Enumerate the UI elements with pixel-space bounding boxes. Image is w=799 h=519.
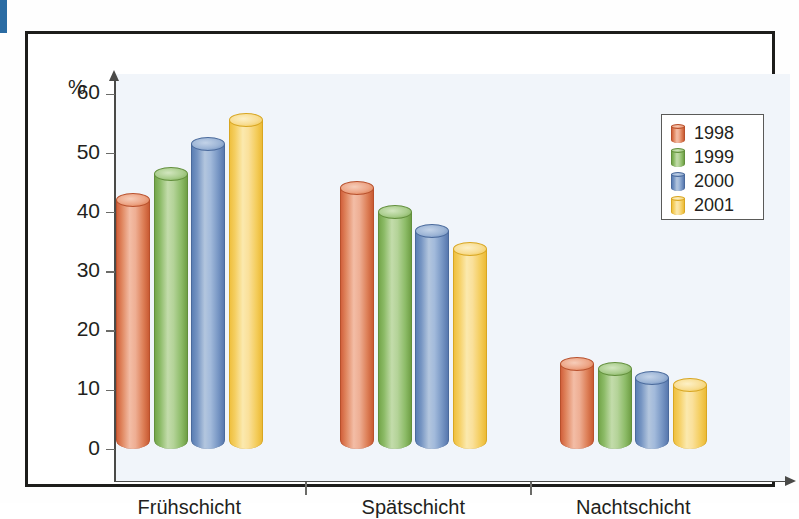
bar-top-cap (378, 205, 412, 219)
bar-frühschicht-1999 (154, 167, 188, 448)
y-axis-tick-label: 40 (28, 213, 100, 214)
legend-swatch-1998 (671, 124, 685, 143)
bar-body (191, 144, 225, 449)
bar-top-cap (635, 371, 669, 385)
chart-figure-frame: % 6050403020100 FrühschichtSpätschichtNa… (25, 31, 775, 487)
legend-item-1998[interactable]: 1998 (671, 122, 734, 144)
bar-body (415, 231, 449, 449)
y-axis-tick-label-text: 10 (77, 376, 100, 400)
y-axis-tick-label-text: 50 (77, 140, 100, 164)
y-axis-tick-label: 0 (28, 450, 100, 451)
x-axis-tick (530, 482, 532, 495)
y-axis-tick (106, 212, 115, 213)
bar-body (673, 385, 707, 449)
bar-nachtschicht-2001 (673, 378, 707, 449)
bar-top-cap (229, 113, 263, 127)
legend-swatch-2000 (671, 172, 685, 191)
y-axis-tick (106, 271, 115, 272)
y-axis-tick-label: 10 (28, 390, 100, 391)
bar-body (598, 369, 632, 449)
y-axis-tick (106, 449, 115, 450)
bar-body (229, 120, 263, 449)
bar-body (116, 200, 150, 449)
legend-swatch-cap (671, 196, 685, 201)
legend-swatch-cap (671, 172, 685, 177)
bar-body (453, 249, 487, 449)
legend-label-2001: 2001 (694, 196, 734, 214)
bar-nachtschicht-2000 (635, 371, 669, 448)
y-axis-tick-label: 30 (28, 272, 100, 273)
x-axis-line (114, 481, 787, 483)
y-axis-tick-label-text: 0 (88, 436, 100, 460)
x-axis-tick (305, 482, 307, 495)
legend-swatch-1999 (671, 148, 685, 167)
y-axis-tick (106, 94, 115, 95)
y-axis-arrow (109, 70, 119, 81)
bar-nachtschicht-1999 (598, 362, 632, 449)
y-axis-tick-label: 50 (28, 154, 100, 155)
y-axis-tick-label-text: 40 (77, 199, 100, 223)
page-margin-tab (0, 0, 7, 33)
bar-top-cap (453, 242, 487, 256)
category-label-1: Frühschicht (99, 496, 279, 519)
bar-frühschicht-2001 (229, 113, 263, 449)
y-axis-tick (106, 330, 115, 331)
legend-item-2001[interactable]: 2001 (671, 194, 734, 216)
bar-spätschicht-1998 (340, 181, 374, 448)
bar-top-cap (598, 362, 632, 376)
bar-spätschicht-2000 (415, 224, 449, 449)
legend-label-1999: 1999 (694, 148, 734, 166)
bar-top-cap (116, 193, 150, 207)
legend-label-2000: 2000 (694, 172, 734, 190)
y-axis-tick (106, 390, 115, 391)
x-axis-arrow (785, 476, 796, 486)
category-label-2: Spätschicht (323, 496, 503, 519)
chart-legend: 1998199920002001 (661, 114, 764, 220)
y-axis-tick-label: 60 (28, 94, 100, 95)
y-axis-tick-label-text: 20 (77, 317, 100, 341)
legend-label-1998: 1998 (694, 124, 734, 142)
bar-top-cap (673, 378, 707, 392)
bar-body (560, 364, 594, 448)
bar-spätschicht-2001 (453, 242, 487, 449)
y-axis-tick-label-text: 60 (77, 80, 100, 104)
y-axis-tick (106, 153, 115, 154)
bar-top-cap (191, 137, 225, 151)
y-axis-tick-label: 20 (28, 331, 100, 332)
bar-body (635, 378, 669, 448)
legend-item-1999[interactable]: 1999 (671, 146, 734, 168)
legend-swatch-cap (671, 148, 685, 153)
y-axis-tick-label-text: 30 (77, 258, 100, 282)
bar-body (340, 188, 374, 448)
legend-swatch-2001 (671, 196, 685, 215)
legend-swatch-cap (671, 124, 685, 129)
bar-top-cap (340, 181, 374, 195)
category-label-3: Nachtschicht (543, 496, 723, 519)
bar-nachtschicht-1998 (560, 357, 594, 448)
bar-top-cap (415, 224, 449, 238)
bar-spätschicht-1999 (378, 205, 412, 449)
legend-item-2000[interactable]: 2000 (671, 170, 734, 192)
bar-body (378, 212, 412, 449)
bar-frühschicht-2000 (191, 137, 225, 449)
bar-body (154, 174, 188, 448)
bar-frühschicht-1998 (116, 193, 150, 449)
